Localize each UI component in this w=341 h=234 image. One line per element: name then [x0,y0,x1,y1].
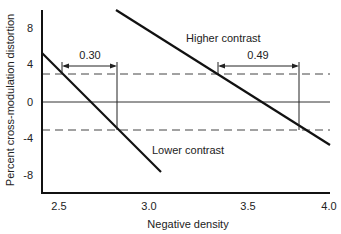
x-axis-label: Negative density [147,218,229,230]
bracket-low-value: 0.30 [79,49,100,61]
y-tick-label: -4 [23,132,33,144]
bracket-lower-contrast: 0.30 [62,49,117,130]
distortion-chart: 8 4 0 -4 -8 2.5 3.0 3.5 4.0 Negative den… [0,0,341,234]
x-ticks: 2.5 3.0 3.5 4.0 [51,200,336,212]
x-tick-label: 3.0 [141,200,156,212]
y-tick-label: 8 [27,22,33,34]
bracket-high-value: 0.49 [247,49,268,61]
lower-contrast-label: Lower contrast [152,144,224,156]
y-tick-label: -8 [23,169,33,181]
lower-contrast-line [42,53,161,172]
y-tick-label: 4 [27,58,33,70]
x-tick-label: 4.0 [321,200,336,212]
y-axis-label: Percent cross-modulation distortion [4,14,16,186]
x-tick-label: 3.5 [240,200,255,212]
x-tick-label: 2.5 [51,200,66,212]
y-tick-label: 0 [27,96,33,108]
y-ticks: 8 4 0 -4 -8 [23,22,33,181]
higher-contrast-label: Higher contrast [186,32,261,44]
higher-contrast-line [116,10,330,145]
